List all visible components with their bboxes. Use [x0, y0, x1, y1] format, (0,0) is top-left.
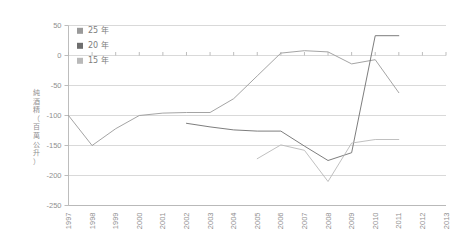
x-axis-tick-label: 2006 — [276, 213, 285, 230]
legend-label: 25 年 — [88, 25, 109, 35]
y-axis-title-char: 升 — [33, 148, 40, 157]
x-axis: 1997199819992000200120022003200420052006… — [64, 52, 451, 229]
y-axis-tick-label: -150 — [46, 141, 61, 150]
y-axis-tick-label: -200 — [46, 171, 61, 180]
y-axis-title-char: 精 — [33, 105, 40, 114]
legend-label: 20 年 — [88, 40, 109, 50]
legend-label: 15 年 — [88, 55, 109, 65]
x-axis-tick-label: 2007 — [300, 213, 309, 230]
x-axis-tick-label: 1999 — [111, 213, 120, 230]
x-axis-tick-label: 2005 — [253, 213, 262, 230]
x-axis-tick-label: 2010 — [371, 213, 380, 230]
y-axis-title: 純酒精（百萬公升） — [33, 88, 40, 166]
series-lines — [69, 36, 399, 182]
chart-legend: 25 年20 年15 年 — [77, 25, 109, 65]
y-axis-title-char: （ — [33, 115, 40, 123]
y-axis-title-char: 萬 — [33, 131, 40, 140]
y-axis-title-char: 百 — [33, 123, 40, 131]
x-axis-tick-label: 2012 — [418, 213, 427, 230]
y-axis-title-char: 純 — [33, 88, 40, 97]
x-axis-tick-label: 2011 — [394, 213, 403, 229]
y-axis: 500-50-100-150-200-250 — [46, 21, 68, 210]
y-axis-tick-label: -100 — [46, 111, 61, 120]
y-axis-title-char: ） — [33, 158, 40, 166]
x-axis-tick-label: 1997 — [64, 213, 73, 230]
y-axis-title-char: 酒 — [33, 98, 40, 106]
line-chart: 500-50-100-150-200-250 19971998199920002… — [0, 0, 458, 247]
y-axis-tick-label: -50 — [51, 81, 62, 90]
y-axis-tick-label: -250 — [46, 201, 61, 210]
legend-swatch — [77, 58, 83, 64]
x-axis-tick-label: 2001 — [158, 213, 167, 230]
series-line-0 — [69, 51, 399, 146]
x-axis-tick-label: 1998 — [88, 213, 97, 230]
x-axis-tick-label: 2013 — [442, 213, 451, 230]
series-line-1 — [186, 36, 398, 161]
legend-swatch — [77, 43, 83, 49]
y-axis-tick-label: 50 — [53, 21, 61, 30]
x-axis-tick-label: 2004 — [229, 213, 238, 230]
legend-swatch — [77, 28, 83, 34]
x-axis-tick-label: 2002 — [182, 213, 191, 230]
x-axis-tick-label: 2003 — [206, 213, 215, 230]
x-axis-tick-label: 2008 — [324, 213, 333, 230]
x-axis-tick-label: 2000 — [135, 213, 144, 230]
y-axis-tick-label: 0 — [57, 51, 61, 60]
x-axis-tick-label: 2009 — [347, 213, 356, 230]
y-axis-title-char: 公 — [33, 141, 40, 149]
chart-container: 500-50-100-150-200-250 19971998199920002… — [0, 0, 458, 247]
